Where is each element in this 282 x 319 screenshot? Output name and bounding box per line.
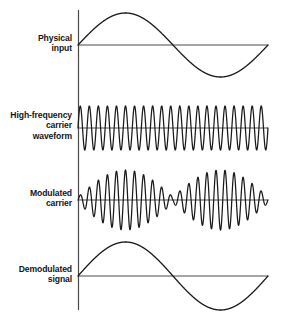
label-carrier-waveform: High-frequency carrier waveform (0, 110, 72, 141)
label-modulated-carrier: Modulated carrier (0, 188, 72, 209)
label-demodulated-signal: Demodulated signal (0, 264, 72, 285)
modulation-diagram: Physical input High-frequency carrier wa… (0, 0, 282, 319)
label-physical-input: Physical input (0, 33, 72, 54)
